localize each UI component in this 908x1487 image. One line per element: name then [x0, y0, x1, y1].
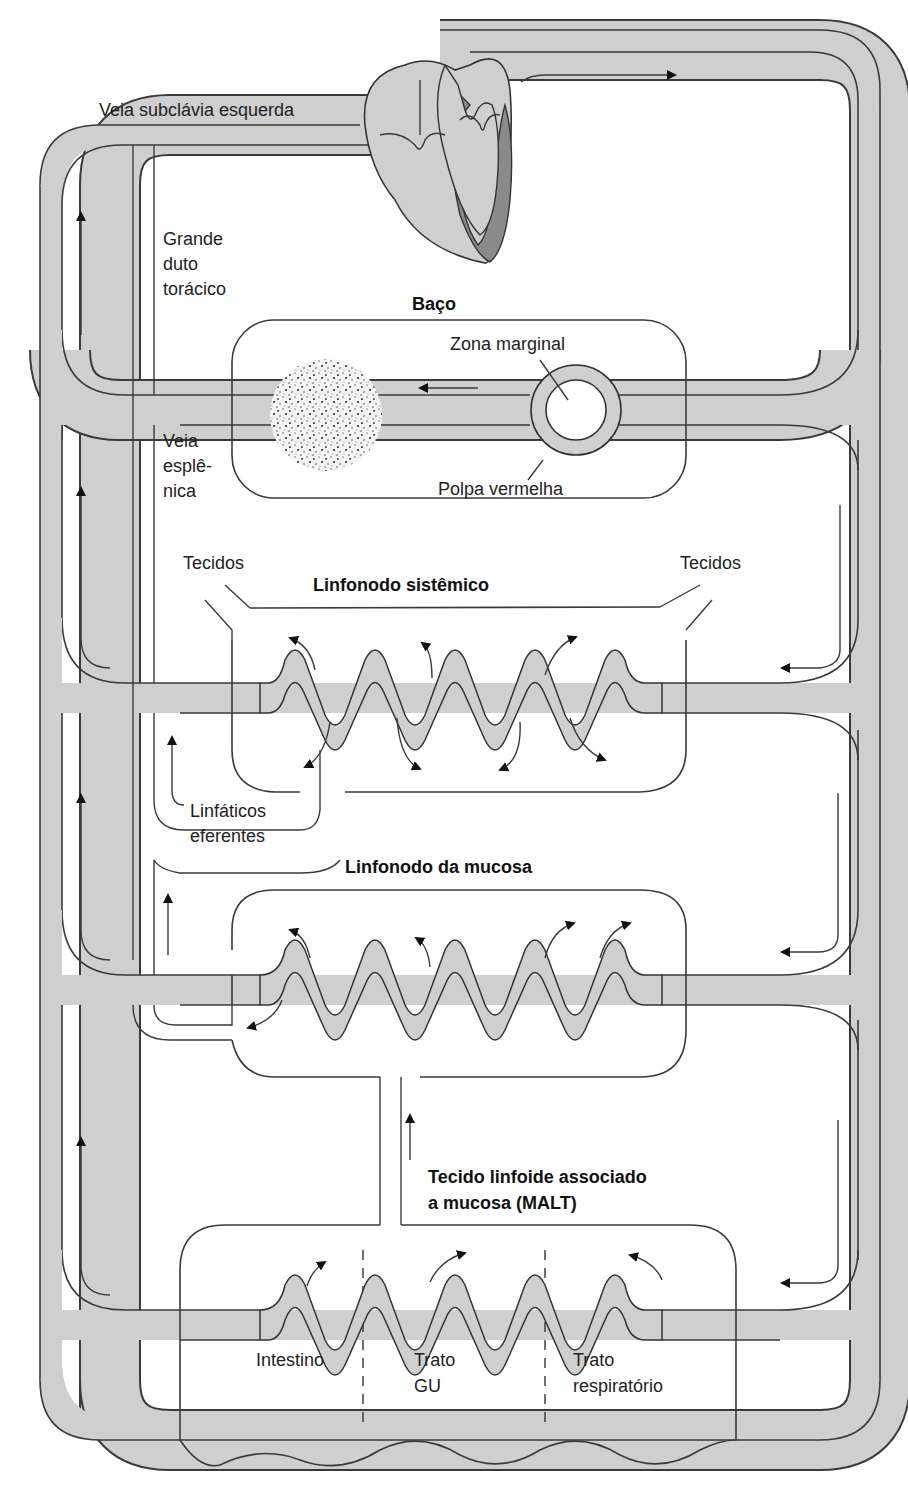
- label-splenic-vein-2: esplê-: [163, 456, 212, 476]
- label-subclavian-vein: Veia subclávia esquerda: [99, 100, 295, 120]
- label-gu-tract-1: Trato: [414, 1350, 455, 1370]
- label-splenic-vein-1: Veia: [163, 431, 199, 451]
- label-thoracic-duct-3: torácico: [163, 279, 226, 299]
- label-marginal-zone: Zona marginal: [450, 334, 565, 354]
- label-thoracic-duct-2: duto: [163, 254, 198, 274]
- label-intestine: Intestino: [256, 1350, 324, 1370]
- label-malt-1: Tecido linfoide associado: [428, 1167, 647, 1187]
- label-gu-tract-2: GU: [414, 1376, 441, 1396]
- label-tissues-left: Tecidos: [183, 553, 244, 573]
- label-efferent-1: Linfáticos: [190, 801, 266, 821]
- label-resp-tract-1: Trato: [573, 1350, 614, 1370]
- heart-illustration: [365, 59, 512, 263]
- label-red-pulp: Polpa vermelha: [438, 479, 564, 499]
- label-resp-tract-2: respiratório: [573, 1376, 663, 1396]
- label-tissues-right: Tecidos: [680, 553, 741, 573]
- label-malt-2: a mucosa (MALT): [428, 1193, 577, 1213]
- label-systemic-node: Linfonodo sistêmico: [313, 575, 489, 595]
- label-efferent-2: eferentes: [190, 826, 265, 846]
- label-mucosal-node: Linfonodo da mucosa: [345, 857, 533, 877]
- label-spleen: Baço: [412, 294, 456, 314]
- white-pulp-follicle: [270, 359, 382, 471]
- label-thoracic-duct-1: Grande: [163, 229, 223, 249]
- lymphocyte-recirculation-diagram: Veia subclávia esquerda Grande duto torá…: [0, 0, 908, 1487]
- label-splenic-vein-3: nica: [163, 481, 197, 501]
